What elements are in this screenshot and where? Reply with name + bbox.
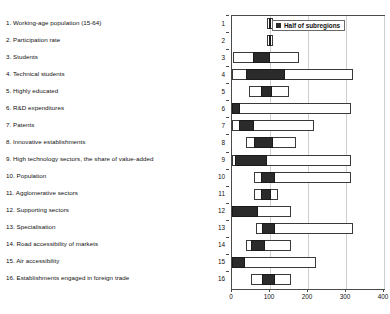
x-tick-mark-0 [231, 289, 232, 292]
y-tick-label-2: 2 [221, 37, 225, 45]
x-tick-label-100: 100 [257, 293, 281, 301]
bar-row [232, 187, 384, 204]
bar-row [232, 221, 384, 238]
x-tick-label-0: 0 [219, 293, 243, 301]
bar-row [232, 135, 384, 152]
category-label-15: 15. Air accessibility [6, 257, 196, 265]
legend-label-half-of-subregions: Half of subregions [284, 22, 340, 29]
bar-row [232, 204, 384, 221]
y-tick-label-8: 8 [221, 139, 225, 147]
y-tick-label-4: 4 [221, 71, 225, 79]
bar-row [232, 118, 384, 135]
x-tick-mark-300 [345, 289, 346, 292]
y-tick-label-1: 1 [221, 20, 225, 28]
y-tick-mark-11 [226, 186, 229, 187]
x-tick-label-300: 300 [333, 293, 357, 301]
category-label-14: 14. Road accessibility of markets [6, 240, 196, 248]
y-tick-mark-3 [226, 49, 229, 50]
y-tick-label-6: 6 [221, 105, 225, 113]
category-label-6: 6. R&D expenditures [6, 104, 196, 112]
y-tick-mark-4 [226, 66, 229, 67]
category-label-4: 4. Technical students [6, 70, 196, 78]
category-label-12: 12. Supporting sectors [6, 206, 196, 214]
plot-area [231, 15, 385, 290]
y-tick-mark-10 [226, 169, 229, 170]
bar-box-half-of-subregions-3 [253, 52, 270, 63]
gridline-400 [384, 16, 385, 289]
bar-box-half-of-subregions-4 [246, 69, 285, 80]
category-label-11: 11. Agglomerative sectors [6, 189, 196, 197]
y-tick-label-12: 12 [218, 207, 225, 215]
x-tick-mark-100 [269, 289, 270, 292]
category-label-2: 2. Participation rate [6, 36, 196, 44]
y-tick-label-10: 10 [218, 173, 225, 181]
y-tick-mark-14 [226, 237, 229, 238]
y-tick-label-13: 13 [218, 224, 225, 232]
y-axis: 12345678910111213141516 [210, 15, 229, 288]
category-label-10: 10. Population [6, 172, 196, 180]
bar-row [232, 84, 384, 101]
category-label-3: 3. Students [6, 53, 196, 61]
bar-box-half-of-subregions-7 [239, 120, 254, 131]
y-tick-mark-13 [226, 220, 229, 221]
bar-row [232, 101, 384, 118]
y-tick-label-7: 7 [221, 122, 225, 130]
y-tick-label-16: 16 [218, 275, 225, 283]
y-tick-mark-6 [226, 100, 229, 101]
bar-row [232, 67, 384, 84]
bar-box-half-of-subregions-8 [254, 137, 273, 148]
x-tick-label-400: 400 [371, 293, 390, 301]
bar-box-half-of-subregions-9 [235, 155, 267, 166]
y-tick-mark-7 [226, 117, 229, 118]
y-tick-mark-15 [226, 254, 229, 255]
y-tick-label-5: 5 [221, 88, 225, 96]
y-tick-label-11: 11 [218, 190, 225, 198]
y-tick-mark-16 [226, 271, 229, 272]
x-tick-label-200: 200 [295, 293, 319, 301]
bar-row [232, 153, 384, 170]
y-tick-label-15: 15 [218, 258, 225, 266]
category-label-7: 7. Patents [6, 121, 196, 129]
bar-range-6 [232, 103, 351, 114]
bar-row [232, 238, 384, 255]
bar-box-half-of-subregions-2 [269, 35, 271, 46]
bar-box-half-of-subregions-13 [262, 223, 275, 234]
y-tick-mark-12 [226, 203, 229, 204]
bar-box-half-of-subregions-5 [261, 86, 272, 97]
bar-row [232, 33, 384, 50]
bar-box-half-of-subregions-14 [251, 240, 265, 251]
category-label-8: 8. Innovative establishments [6, 138, 196, 146]
legend-swatch-half-of-subregions [276, 23, 281, 28]
chart-legend: Half of subregions [272, 20, 345, 31]
bar-box-half-of-subregions-15 [232, 257, 245, 268]
y-tick-mark-8 [226, 134, 229, 135]
y-tick-label-3: 3 [221, 54, 225, 62]
bar-box-half-of-subregions-1 [269, 18, 271, 29]
y-tick-label-14: 14 [218, 241, 225, 249]
bar-box-half-of-subregions-12 [232, 206, 258, 217]
bar-box-half-of-subregions-11 [261, 189, 271, 200]
x-tick-mark-400 [383, 289, 384, 292]
bar-box-half-of-subregions-6 [232, 103, 240, 114]
category-label-13: 13. Specialisation [6, 223, 196, 231]
bar-box-half-of-subregions-10 [261, 172, 275, 183]
category-label-5: 5. Highly educated [6, 87, 196, 95]
bar-row [232, 170, 384, 187]
y-tick-mark-5 [226, 83, 229, 84]
y-tick-mark-1 [226, 15, 229, 16]
chart-figure: 1. Working-age population (15-64)2. Part… [0, 0, 390, 314]
category-label-1: 1. Working-age population (15-64) [6, 19, 196, 27]
category-label-16: 16. Establishments engaged in foreign tr… [6, 274, 196, 282]
bar-box-half-of-subregions-16 [262, 274, 275, 285]
y-tick-label-9: 9 [221, 156, 225, 164]
y-tick-mark-9 [226, 152, 229, 153]
bar-row [232, 255, 384, 272]
x-axis: 0100200300400 [231, 289, 385, 307]
category-label-9: 9. High technology sectors, the share of… [6, 155, 196, 163]
y-tick-mark-2 [226, 32, 229, 33]
category-label-list: 1. Working-age population (15-64)2. Part… [6, 14, 196, 290]
x-tick-mark-200 [307, 289, 308, 292]
bar-row [232, 50, 384, 67]
bar-row [232, 272, 384, 289]
